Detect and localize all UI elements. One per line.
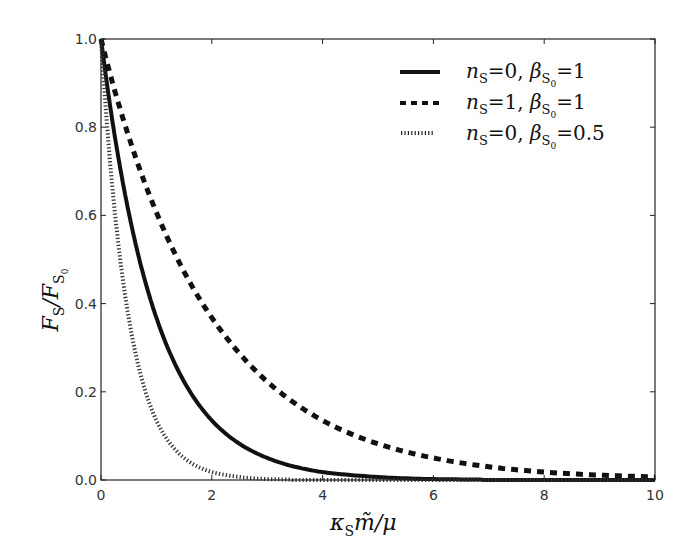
x-tick-label: 10 (646, 487, 664, 503)
y-tick-label: 0.6 (75, 207, 97, 223)
x-axis-label: κSm̃/μ (329, 510, 397, 539)
y-tick-label: 0.8 (75, 119, 97, 135)
x-tick-label: 0 (97, 487, 106, 503)
x-tick-label: 6 (429, 487, 438, 503)
legend-entry-dotted: nS=0, βS0=0.5 (401, 121, 605, 151)
y-tick-label: 0.2 (75, 384, 97, 400)
x-tick-label: 8 (540, 487, 549, 503)
legend-entry-solid: nS=0, βS0=1 (400, 59, 586, 89)
legend: nS=0, βS0=1 nS=1, βS0=1 nS=0, βS0=0.5 (400, 59, 605, 151)
x-tick-label: 4 (318, 487, 327, 503)
y-tick-label: 0.4 (75, 296, 97, 312)
y-tick-label: 1.0 (75, 31, 97, 47)
legend-label-1: nS=0, βS0=1 (466, 59, 586, 89)
y-axis-label: FS/FS0 (38, 268, 70, 332)
line-chart: 02468100.00.20.40.60.81.0 nS=0, βS0=1 nS… (0, 0, 696, 560)
legend-entry-dashed: nS=1, βS0=1 (400, 90, 586, 120)
y-tick-label: 0.0 (75, 472, 97, 488)
legend-label-2: nS=1, βS0=1 (466, 90, 586, 120)
legend-label-3: nS=0, βS0=0.5 (466, 121, 605, 151)
x-tick-label: 2 (207, 487, 216, 503)
